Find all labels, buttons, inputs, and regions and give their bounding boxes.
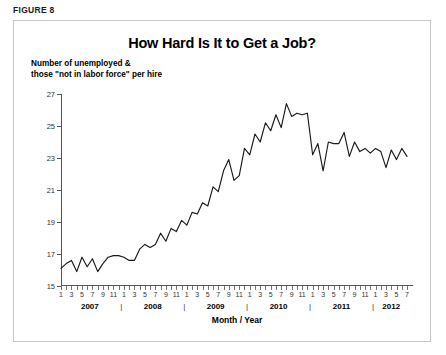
- x-tick-mark: [192, 286, 193, 290]
- x-tick-label: 7: [153, 291, 157, 298]
- x-tick-mark: [82, 286, 83, 290]
- x-axis-year-separator: |: [309, 302, 311, 311]
- x-tick-mark: [218, 286, 219, 290]
- x-tick-label: 3: [70, 291, 74, 298]
- x-tick-mark: [365, 286, 366, 290]
- x-tick-label: 5: [332, 291, 336, 298]
- x-axis-year-separator: |: [372, 302, 374, 311]
- x-tick-label: 11: [236, 291, 243, 298]
- x-tick-mark: [407, 286, 408, 290]
- x-tick-mark: [281, 286, 282, 290]
- x-tick-mark: [334, 286, 335, 290]
- x-tick-mark: [203, 286, 204, 290]
- x-tick-label: 11: [299, 291, 306, 298]
- x-tick-label: 7: [216, 291, 220, 298]
- x-tick-label: 3: [258, 291, 262, 298]
- x-axis-year-separator: |: [120, 302, 122, 311]
- x-tick-label: 9: [164, 291, 168, 298]
- x-tick-label: 3: [321, 291, 325, 298]
- x-axis-year-label: 2009: [207, 302, 225, 311]
- chart-panel: How Hard Is It to Get a Job? Number of u…: [13, 20, 431, 342]
- x-tick-mark: [318, 286, 319, 290]
- x-tick-mark: [307, 286, 308, 290]
- x-tick-label: 9: [101, 291, 105, 298]
- x-tick-mark: [386, 286, 387, 290]
- x-tick-mark: [286, 286, 287, 290]
- x-tick-mark: [349, 286, 350, 290]
- x-tick-label: 5: [80, 291, 84, 298]
- x-tick-mark: [224, 286, 225, 290]
- x-tick-label: 5: [206, 291, 210, 298]
- x-tick-mark: [255, 286, 256, 290]
- x-tick-mark: [276, 286, 277, 290]
- x-tick-mark: [292, 286, 293, 290]
- x-tick-mark: [213, 286, 214, 290]
- x-tick-mark: [297, 286, 298, 290]
- x-tick-mark: [239, 286, 240, 290]
- x-tick-mark: [166, 286, 167, 290]
- x-tick-mark: [129, 286, 130, 290]
- figure-label: FIGURE 8: [13, 5, 55, 15]
- x-tick-mark: [161, 286, 162, 290]
- x-axis-title: Month / Year: [212, 315, 262, 325]
- plot-area: 15171921232527 1357911135791113579111357…: [61, 94, 413, 286]
- x-tick-mark: [355, 286, 356, 290]
- x-tick-mark: [113, 286, 114, 290]
- series-polyline: [61, 104, 407, 272]
- x-tick-label: 7: [279, 291, 283, 298]
- x-tick-mark: [391, 286, 392, 290]
- x-tick-mark: [260, 286, 261, 290]
- x-tick-label: 9: [290, 291, 294, 298]
- y-tick-label: 21: [47, 186, 55, 195]
- x-tick-mark: [155, 286, 156, 290]
- x-tick-mark: [182, 286, 183, 290]
- x-tick-mark: [176, 286, 177, 290]
- x-tick-mark: [197, 286, 198, 290]
- x-tick-label: 3: [132, 291, 136, 298]
- x-tick-mark: [302, 286, 303, 290]
- x-tick-mark: [339, 286, 340, 290]
- x-tick-mark: [71, 286, 72, 290]
- x-tick-mark: [271, 286, 272, 290]
- x-tick-label: 5: [395, 291, 399, 298]
- x-tick-label: 9: [353, 291, 357, 298]
- x-axis-year-separator: |: [183, 302, 185, 311]
- x-tick-label: 1: [311, 291, 315, 298]
- x-tick-mark: [150, 286, 151, 290]
- x-tick-mark: [61, 286, 62, 290]
- x-tick-label: 7: [405, 291, 409, 298]
- x-axis-year-label: 2008: [144, 302, 162, 311]
- x-tick-mark: [381, 286, 382, 290]
- y-tick-label: 15: [47, 282, 55, 291]
- x-tick-mark: [234, 286, 235, 290]
- x-tick-mark: [92, 286, 93, 290]
- x-tick-mark: [119, 286, 120, 290]
- x-axis-year-label: 2012: [382, 302, 400, 311]
- y-axis-title: Number of unemployed & those "not in lab…: [31, 59, 162, 80]
- x-tick-label: 1: [185, 291, 189, 298]
- x-tick-mark: [328, 286, 329, 290]
- x-tick-mark: [229, 286, 230, 290]
- x-tick-mark: [360, 286, 361, 290]
- x-tick-mark: [108, 286, 109, 290]
- x-tick-mark: [370, 286, 371, 290]
- x-tick-mark: [265, 286, 266, 290]
- x-tick-label: 1: [59, 291, 63, 298]
- data-line-series: [61, 94, 413, 286]
- x-tick-label: 9: [227, 291, 231, 298]
- x-tick-label: 7: [342, 291, 346, 298]
- x-tick-mark: [376, 286, 377, 290]
- x-tick-mark: [66, 286, 67, 290]
- x-tick-mark: [171, 286, 172, 290]
- x-tick-label: 5: [269, 291, 273, 298]
- x-tick-label: 3: [195, 291, 199, 298]
- x-tick-label: 11: [361, 291, 368, 298]
- x-tick-mark: [244, 286, 245, 290]
- x-tick-mark: [344, 286, 345, 290]
- x-tick-mark: [402, 286, 403, 290]
- x-tick-label: 5: [143, 291, 147, 298]
- x-tick-mark: [397, 286, 398, 290]
- x-tick-mark: [140, 286, 141, 290]
- x-tick-mark: [87, 286, 88, 290]
- y-tick-label: 23: [47, 154, 55, 163]
